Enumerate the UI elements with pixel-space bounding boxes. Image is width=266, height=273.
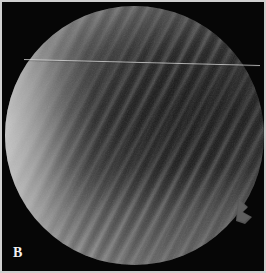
- interference-fringes-secondary: [5, 6, 264, 265]
- specimen-vertical-shading: [5, 6, 264, 265]
- panel-label: B: [13, 246, 23, 260]
- micrograph-black-field: B: [2, 2, 264, 271]
- interference-fringes-primary: [5, 6, 264, 265]
- micrograph-figure-panel: B: [0, 0, 266, 273]
- specimen-bright-limb: [5, 6, 264, 265]
- specimen-disc: [5, 6, 264, 265]
- fringe-layer: [5, 6, 264, 265]
- film-grain-texture: [5, 6, 264, 265]
